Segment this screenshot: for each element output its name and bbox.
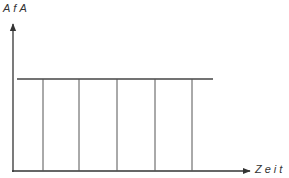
y-axis-label: AfA <box>3 2 30 14</box>
x-axis-label: Zeit <box>255 163 285 175</box>
period-dividers <box>43 79 192 171</box>
depreciation-diagram <box>0 0 289 178</box>
